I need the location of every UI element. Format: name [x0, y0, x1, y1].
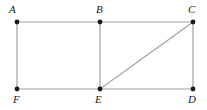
figure-canvas — [0, 0, 207, 110]
vertices-group — [15, 20, 196, 92]
vertex-point-b — [98, 20, 103, 25]
segments-group — [17, 22, 193, 89]
vertex-label-b: B — [96, 4, 103, 15]
vertex-point-d — [191, 87, 196, 92]
vertex-point-c — [191, 20, 196, 25]
vertex-label-a: A — [9, 4, 16, 15]
vertex-label-c: C — [188, 4, 195, 15]
vertex-label-d: D — [188, 94, 196, 105]
segment-ec — [100, 22, 193, 89]
vertex-label-f: F — [13, 94, 20, 105]
vertex-label-e: E — [95, 94, 102, 105]
geometry-figure: ABCFED — [0, 0, 207, 110]
vertex-point-a — [15, 20, 20, 25]
vertex-point-e — [98, 87, 103, 92]
vertex-point-f — [15, 87, 20, 92]
